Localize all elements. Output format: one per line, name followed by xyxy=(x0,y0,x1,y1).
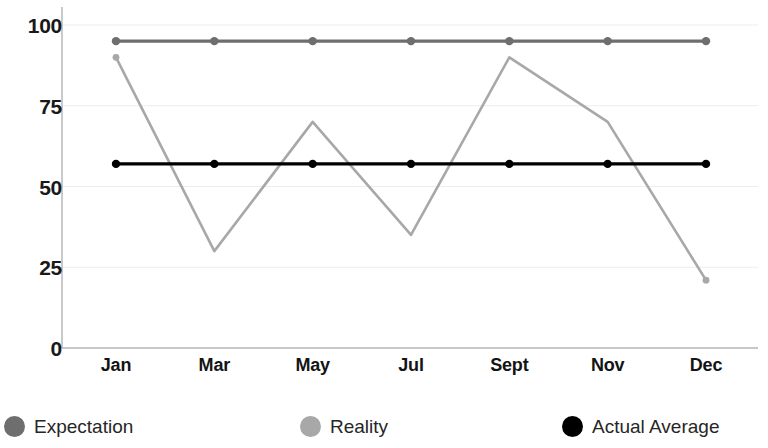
legend-item-reality[interactable]: Reality xyxy=(300,416,388,437)
x-axis-tick-label: Dec xyxy=(690,356,722,376)
legend-label: Actual Average xyxy=(592,417,719,436)
x-axis-tick-label: Mar xyxy=(199,356,230,376)
plot-area: 1007550250 JanMarMayJulSeptNovDec xyxy=(0,0,768,400)
data-point xyxy=(308,160,316,168)
legend-label: Expectation xyxy=(34,417,133,436)
data-point xyxy=(112,160,120,168)
data-point xyxy=(603,37,611,45)
y-axis-tick-labels: 1007550250 xyxy=(0,0,62,400)
legend-item-actual-average[interactable]: Actual Average xyxy=(562,416,719,437)
x-axis-tick-label: Jul xyxy=(398,356,423,376)
x-axis-tick-label: Nov xyxy=(591,356,624,376)
legend-item-expectation[interactable]: Expectation xyxy=(4,416,133,437)
data-point xyxy=(112,37,120,45)
x-axis-tick-label: May xyxy=(295,356,329,376)
axis-lines xyxy=(62,7,758,348)
data-point xyxy=(210,37,218,45)
y-axis-tick-label: 100 xyxy=(6,15,62,36)
x-axis-tick-label: Jan xyxy=(101,356,131,376)
data-point xyxy=(603,160,611,168)
series-line-reality xyxy=(116,57,706,280)
data-point xyxy=(407,160,415,168)
data-point xyxy=(210,160,218,168)
data-point xyxy=(505,160,513,168)
legend-label: Reality xyxy=(330,417,388,436)
y-axis-tick-label: 75 xyxy=(6,95,62,116)
circle-marker-icon xyxy=(4,416,25,437)
x-axis-tick-label: Sept xyxy=(490,356,528,376)
series-markers xyxy=(112,37,710,284)
x-axis-tick-labels: JanMarMayJulSeptNovDec xyxy=(0,356,768,386)
chart-legend: ExpectationRealityActual Average xyxy=(0,400,768,448)
y-axis-tick-label: 50 xyxy=(6,176,62,197)
data-point xyxy=(113,54,120,61)
line-chart: 1007550250 JanMarMayJulSeptNovDec Expect… xyxy=(0,0,768,448)
data-point xyxy=(308,37,316,45)
data-point xyxy=(702,160,710,168)
data-point xyxy=(703,277,710,284)
gridlines xyxy=(62,25,758,267)
data-point xyxy=(702,37,710,45)
y-axis-tick-label: 25 xyxy=(6,257,62,278)
circle-marker-icon xyxy=(300,416,321,437)
circle-marker-icon xyxy=(562,416,583,437)
data-point xyxy=(407,37,415,45)
plot-svg xyxy=(0,0,768,400)
data-point xyxy=(505,37,513,45)
